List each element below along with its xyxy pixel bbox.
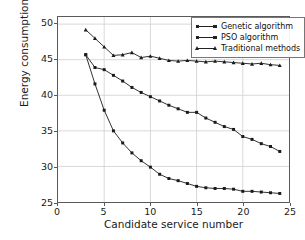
legend-label: Traditional methods	[221, 45, 300, 53]
legend-label: Genetic algorithm	[221, 23, 293, 31]
x-tick-label: 20	[237, 207, 249, 217]
x-tick-mark	[197, 203, 198, 206]
x-tick-label: 5	[101, 207, 107, 217]
legend-item-traditional-methods[interactable]: Traditional methods	[195, 43, 300, 54]
y-tick-mark	[54, 131, 57, 132]
x-tick-mark	[290, 203, 291, 206]
y-tick-mark	[54, 95, 57, 96]
x-tick-label: 25	[284, 207, 296, 217]
y-tick-label: 25	[28, 198, 53, 208]
legend-marker-square-icon	[195, 33, 217, 42]
x-tick-mark	[104, 203, 105, 206]
x-tick-mark	[243, 203, 244, 206]
y-tick-mark	[54, 167, 57, 168]
x-tick-label: 0	[54, 207, 60, 217]
x-tick-label: 10	[144, 207, 156, 217]
legend-marker-triangle-icon	[195, 44, 217, 53]
energy-consumption-chart: Energy consumption(J) 253035404550 05101…	[0, 0, 305, 240]
y-tick-mark	[54, 59, 57, 60]
x-tick-label: 15	[191, 207, 203, 217]
legend-marker-square-icon	[195, 22, 217, 31]
legend-label: PSO algorithm	[221, 34, 278, 42]
x-axis-title: Candidate service number	[57, 219, 290, 230]
y-tick-label: 30	[28, 162, 53, 172]
chart-legend: Genetic algorithm PSO algorithm Traditio…	[191, 17, 305, 58]
y-tick-label: 40	[28, 90, 53, 100]
y-tick-label: 50	[28, 18, 53, 28]
y-tick-label: 35	[28, 126, 53, 136]
y-tick-label: 45	[28, 54, 53, 64]
x-tick-mark	[57, 203, 58, 206]
y-tick-mark	[54, 23, 57, 24]
legend-item-pso-algorithm[interactable]: PSO algorithm	[195, 32, 300, 43]
x-tick-mark	[150, 203, 151, 206]
legend-item-genetic-algorithm[interactable]: Genetic algorithm	[195, 21, 300, 32]
